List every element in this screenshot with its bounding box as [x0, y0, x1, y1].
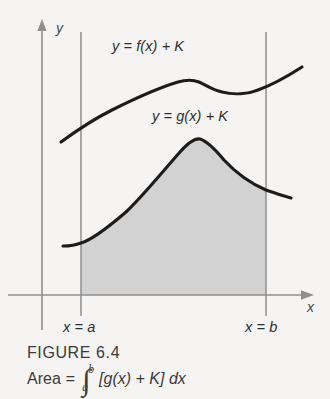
figure-number-label: FIGURE 6.4 — [27, 344, 327, 362]
shaded-area-region — [81, 139, 266, 295]
boundary-label-b: x = b — [245, 319, 277, 335]
boundary-label-a: x = a — [63, 319, 95, 335]
y-axis-label: y — [56, 20, 63, 36]
integral-symbol-group: ∫ b a — [82, 365, 94, 392]
curve-label-f: y = f(x) + K — [112, 38, 184, 54]
curve-label-g: y = g(x) + K — [152, 108, 228, 124]
equals-sign: = — [66, 370, 75, 388]
integral-lower-limit: a — [82, 381, 88, 394]
area-formula: Area = ∫ b a [g(x) + K] dx — [27, 365, 327, 392]
y-axis-arrowhead — [37, 19, 46, 31]
figure-container: y = f(x) + K y = g(x) + K x = a x = b y … — [0, 0, 330, 399]
area-word: Area — [27, 370, 61, 388]
integrand-expression: [g(x) + K] dx — [99, 370, 186, 388]
figure-caption: FIGURE 6.4 Area = ∫ b a [g(x) + K] dx — [27, 344, 327, 392]
integral-upper-limit: b — [88, 363, 94, 376]
x-axis-label: x — [307, 299, 314, 315]
plot-canvas — [0, 0, 330, 399]
